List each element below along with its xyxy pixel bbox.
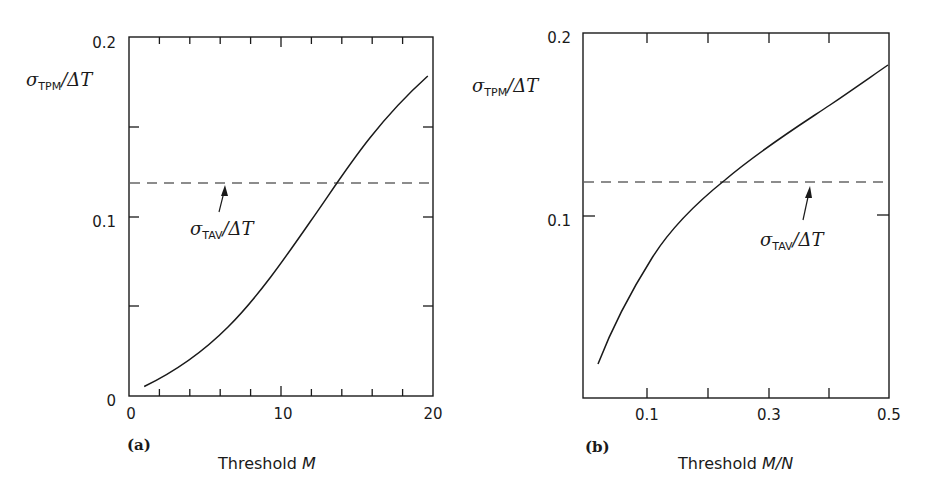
chart-a-ytick-0.1: 0.1: [92, 213, 116, 231]
chart-a-panel-label: (a): [127, 436, 151, 454]
chart-a: 0 10 20 0 0.1 0.2 σTPM/ΔT σTAV/ΔT (a) Th…: [26, 34, 443, 473]
chart-b-xtick-0.5: 0.5: [877, 406, 901, 424]
chart-a-xtick-0: 0: [126, 405, 136, 423]
chart-a-ytick-0.2: 0.2: [92, 34, 116, 52]
chart-a-xlabel: Threshold M: [217, 454, 316, 473]
chart-b-xtick-0.3: 0.3: [757, 406, 781, 424]
chart-b-tpm-curve: [598, 65, 888, 364]
chart-b-x-ticks: [647, 33, 829, 398]
chart-b-annotation-arrow: [803, 186, 812, 220]
chart-a-ytick-0: 0: [106, 392, 116, 410]
chart-b-xtick-0.1: 0.1: [635, 406, 659, 424]
chart-b-panel-label: (b): [585, 438, 610, 456]
chart-a-x-ticks: [159, 37, 402, 396]
chart-b: 0.1 0.3 0.5 0.1 0.2 σTPM/ΔT σTAV/ΔT (b) …: [472, 29, 901, 473]
chart-b-ytick-0.2: 0.2: [547, 29, 571, 47]
chart-b-ytick-0.1: 0.1: [547, 212, 571, 230]
chart-a-y-ticks: [129, 127, 433, 306]
figure: 0 10 20 0 0.1 0.2 σTPM/ΔT σTAV/ΔT (a) Th…: [0, 0, 928, 493]
chart-a-xtick-10: 10: [273, 405, 292, 423]
chart-a-ylabel: σTPM/ΔT: [26, 69, 94, 93]
chart-a-tav-label: σTAV/ΔT: [190, 218, 256, 242]
chart-a-annotation-arrow: [219, 185, 228, 212]
chart-b-tav-label: σTAV/ΔT: [760, 229, 826, 253]
chart-a-frame: [129, 37, 433, 396]
chart-b-xlabel: Threshold M/N: [677, 454, 793, 473]
chart-a-tpm-curve: [144, 76, 428, 387]
chart-b-ylabel: σTPM/ΔT: [472, 75, 540, 99]
chart-b-y-ticks: [583, 215, 889, 216]
chart-b-frame: [583, 33, 889, 398]
chart-a-xtick-20: 20: [423, 405, 442, 423]
